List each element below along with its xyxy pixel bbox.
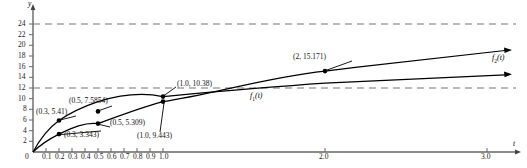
y-tick-label-6: 6 xyxy=(23,116,27,124)
data-point-f2-4[interactable] xyxy=(323,69,328,74)
x-tick-label-0.6: 0.6 xyxy=(107,153,116,161)
curve-f1-arrow xyxy=(504,72,512,78)
x-tick-label-0.4: 0.4 xyxy=(81,153,90,161)
curve-label-f1-tail: (t) xyxy=(255,91,263,100)
data-point-f1-2[interactable] xyxy=(96,109,101,114)
point-label-f2-3: (1.0, 9.443) xyxy=(137,132,172,140)
x-tick-label-0.3: 0.3 xyxy=(68,153,77,161)
data-point-f2-2[interactable] xyxy=(96,121,101,126)
point-label-f2-1: (0.3, 3.343) xyxy=(64,131,99,139)
x-tick-label-0.7: 0.7 xyxy=(120,153,129,161)
curve-label-f2-tail: (t) xyxy=(497,53,505,62)
y-tick-label-2: 2 xyxy=(23,137,27,145)
y-tick-label-12: 12 xyxy=(18,84,26,92)
chart-canvas: 24 22 20 18 16 14 12 10 8 6 4 2 0 0.1 0.… xyxy=(0,0,527,168)
y-tick-label-18: 18 xyxy=(18,52,26,60)
y-tick-label-20: 20 xyxy=(18,41,26,49)
curve-label-f2: f2(t) xyxy=(492,54,505,64)
x-axis-label: t xyxy=(513,140,515,148)
point-label-f1-2: (0.5, 7.5854) xyxy=(69,97,108,105)
point-label-f2-2: (0.5, 5.309) xyxy=(110,119,145,127)
x-tick-label-1.0: 1.0 xyxy=(159,153,168,161)
y-tick-label-24: 24 xyxy=(18,20,26,28)
y-tick-label-8: 8 xyxy=(23,105,27,113)
y-tick-label-4: 4 xyxy=(23,127,27,135)
y-tick-label-10: 10 xyxy=(18,95,26,103)
curve-f2-arrow xyxy=(504,47,512,53)
point-label-f2-4: (2, 15.171) xyxy=(293,53,326,61)
x-tick-label-0.9: 0.9 xyxy=(146,153,155,161)
x-axis-arrow xyxy=(515,150,521,155)
x-tick-label-0.8: 0.8 xyxy=(133,153,142,161)
data-point-f2-3[interactable] xyxy=(161,99,166,104)
x-tick-label-0.2: 0.2 xyxy=(55,153,64,161)
y-tick-label-14: 14 xyxy=(18,73,26,81)
chart-svg xyxy=(0,0,527,168)
point-label-f1-1: (0.3, 5.41) xyxy=(36,108,67,116)
x-tick-label-0.5: 0.5 xyxy=(94,153,103,161)
point-label-f1-3: (1.0, 10.38) xyxy=(177,80,212,88)
x-tick-label-3.0: 3.0 xyxy=(481,153,490,161)
curve-label-f1: f1(t) xyxy=(250,92,263,102)
y-tick-label-0: 0 xyxy=(25,153,29,161)
curve-f1 xyxy=(33,75,505,152)
data-point-f1-1[interactable] xyxy=(57,118,62,123)
x-tick-label-0.1: 0.1 xyxy=(42,153,51,161)
x-tick-label-2.0: 2.0 xyxy=(319,153,328,161)
y-tick-label-22: 22 xyxy=(18,31,26,39)
y-tick-label-16: 16 xyxy=(18,63,26,71)
y-axis-label: y xyxy=(28,0,31,8)
